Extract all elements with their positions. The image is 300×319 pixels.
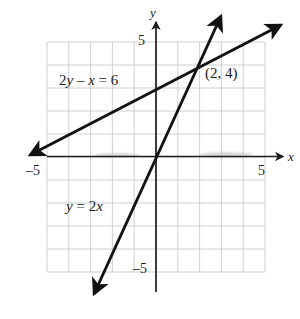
eq1-variable-x: x	[88, 72, 95, 88]
y-tick-label-positive-5: 5	[138, 34, 145, 48]
axis-lines	[47, 22, 283, 292]
x-axis-label: x	[288, 150, 294, 163]
coordinate-plane-figure: y x 5 –5 –5 5 2y – x = 6 y = 2x (2, 4)	[0, 0, 300, 319]
eq2-variable-y: y	[66, 198, 73, 214]
eq1-equals-value: = 6	[95, 72, 118, 88]
x-tick-label-positive-5: 5	[258, 164, 265, 178]
graph-canvas	[0, 0, 300, 319]
y-axis-label: y	[150, 6, 156, 19]
line-y-equals-2x	[94, 16, 221, 294]
eq1-coefficient: 2	[59, 72, 67, 88]
equation-label-line1: 2y – x = 6	[59, 73, 118, 88]
eq1-operator: –	[73, 72, 88, 88]
x-tick-label-negative-5: –5	[26, 164, 40, 178]
eq2-variable-x: x	[96, 198, 103, 214]
equation-label-line2: y = 2x	[66, 199, 103, 214]
y-tick-label-negative-5: –5	[133, 262, 147, 276]
intersection-point-label: (2, 4)	[205, 66, 238, 81]
eq2-equals-coefficient: = 2	[73, 198, 96, 214]
